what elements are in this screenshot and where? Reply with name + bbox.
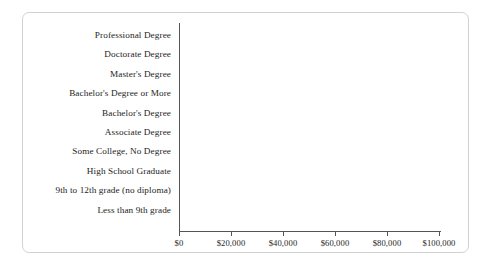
bar-row — [181, 147, 319, 156]
category-label: High School Graduate — [87, 166, 171, 176]
chart-card-frame: Professional DegreeDoctorate DegreeMaste… — [22, 12, 469, 253]
x-axis-tick-label: $80,000 — [373, 238, 402, 248]
bar-row — [181, 31, 444, 40]
x-axis-tick — [439, 232, 440, 236]
chart-screenshot: Professional DegreeDoctorate DegreeMaste… — [0, 0, 491, 272]
bar-row — [181, 128, 334, 137]
x-axis-tick-label: $20,000 — [217, 238, 246, 248]
x-axis-tick-label: $60,000 — [321, 238, 350, 248]
bar-chart-plot: Professional DegreeDoctorate DegreeMaste… — [23, 13, 468, 252]
category-label: Master's Degree — [110, 69, 171, 79]
x-axis-tick-label: $100,000 — [422, 238, 455, 248]
category-label: Bachelor's Degree or More — [69, 88, 171, 98]
bar-row — [181, 108, 384, 117]
category-label: Professional Degree — [95, 30, 171, 40]
y-axis-line — [179, 23, 180, 232]
x-axis-tick — [335, 232, 336, 236]
bar-row — [181, 166, 298, 175]
bar-row — [181, 186, 259, 195]
bar-row — [181, 205, 249, 214]
category-label: Bachelor's Degree — [102, 108, 171, 118]
category-label: Some College, No Degree — [72, 146, 171, 156]
x-axis-tick — [283, 232, 284, 236]
category-label: Doctorate Degree — [104, 49, 171, 59]
bar-row — [181, 50, 444, 59]
x-axis-tick — [231, 232, 232, 236]
x-axis-tick — [387, 232, 388, 236]
x-axis-tick-label: $40,000 — [269, 238, 298, 248]
category-label: 9th to 12th grade (no diploma) — [55, 185, 171, 195]
category-label: Associate Degree — [105, 127, 171, 137]
x-axis-tick-label: $0 — [175, 238, 184, 248]
bar-row — [181, 69, 420, 78]
bar-row — [181, 89, 402, 98]
x-axis-line — [179, 231, 441, 232]
x-axis-tick — [179, 232, 180, 236]
category-label: Less than 9th grade — [97, 205, 171, 215]
